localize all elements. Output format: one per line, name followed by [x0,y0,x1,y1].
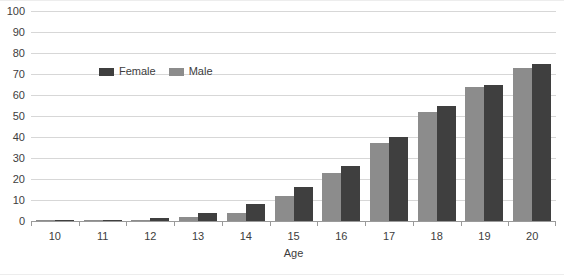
bar-male-age-14[interactable] [227,213,246,221]
x-label-age-14: 14 [222,230,270,243]
x-tick-age-15 [270,221,318,227]
legend: Female Male [99,66,213,77]
legend-swatch-female-icon [99,68,114,76]
bar-group-age-11 [79,11,127,221]
x-tick-age-12 [126,221,174,227]
bar-male-age-19[interactable] [465,87,484,221]
page-top-edge [0,0,564,1]
x-label-age-12: 12 [126,230,174,243]
y-tick-label-70: 70 [13,69,25,80]
y-tick-label-20: 20 [13,174,25,185]
bar-chart: 1009080706050403020100 10111213141516171… [0,0,564,275]
bar-group-age-19 [461,11,509,221]
bar-male-age-18[interactable] [418,112,437,221]
bar-female-age-19[interactable] [484,85,503,222]
bar-group-age-16 [317,11,365,221]
bar-female-age-20[interactable] [532,64,551,222]
x-axis-ticks [31,221,556,227]
bar-male-age-20[interactable] [513,68,532,221]
y-tick-label-40: 40 [13,132,25,143]
x-label-age-19: 19 [461,230,509,243]
x-label-age-18: 18 [413,230,461,243]
y-tick-label-90: 90 [13,27,25,38]
legend-item-female[interactable]: Female [99,66,156,77]
y-tick-label-10: 10 [13,195,25,206]
bar-female-age-17[interactable] [389,137,408,221]
legend-item-male[interactable]: Male [169,66,213,77]
x-tick-age-17 [365,221,413,227]
x-axis-labels: 1011121314151617181920 [31,230,556,243]
y-tick-label-60: 60 [13,90,25,101]
y-tick-label-80: 80 [13,48,25,59]
bar-groups [31,11,556,221]
x-tick-age-13 [174,221,222,227]
x-tick-age-20 [508,221,556,227]
legend-label-male: Male [189,66,213,77]
plot-area: 1009080706050403020100 [31,11,556,221]
x-tick-age-19 [461,221,509,227]
bar-group-age-17 [365,11,413,221]
bar-female-age-14[interactable] [246,204,265,221]
bar-female-age-13[interactable] [198,213,217,221]
x-axis-title: Age [31,247,556,260]
y-tick-label-100: 100 [7,6,25,17]
bar-male-age-15[interactable] [275,196,294,221]
x-label-age-16: 16 [317,230,365,243]
bar-group-age-13 [174,11,222,221]
legend-label-female: Female [119,66,156,77]
x-label-age-11: 11 [79,230,127,243]
x-tick-age-10 [31,221,79,227]
bar-group-age-14 [222,11,270,221]
x-label-age-17: 17 [365,230,413,243]
legend-swatch-male-icon [169,68,184,76]
y-tick-label-50: 50 [13,111,25,122]
bar-group-age-18 [413,11,461,221]
y-tick-label-30: 30 [13,153,25,164]
x-label-age-13: 13 [174,230,222,243]
x-tick-age-14 [222,221,270,227]
y-tick-label-0: 0 [19,216,25,227]
bar-group-age-15 [270,11,318,221]
bar-female-age-18[interactable] [437,106,456,222]
x-tick-age-11 [79,221,127,227]
x-label-age-10: 10 [31,230,79,243]
bar-male-age-17[interactable] [370,143,389,221]
x-label-age-15: 15 [270,230,318,243]
x-tick-age-18 [413,221,461,227]
bar-group-age-10 [31,11,79,221]
x-label-age-20: 20 [508,230,556,243]
x-tick-age-16 [317,221,365,227]
bar-male-age-16[interactable] [322,173,341,221]
bar-female-age-16[interactable] [341,166,360,221]
bar-group-age-20 [508,11,556,221]
bar-group-age-12 [126,11,174,221]
bar-female-age-15[interactable] [294,187,313,221]
